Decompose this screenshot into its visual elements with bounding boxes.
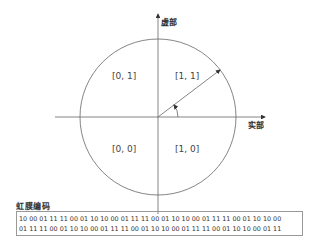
iris-code-box: 10 00 01 11 11 00 01 10 10 00 01 11 11 0… [16, 211, 303, 236]
iris-code-line-1: 10 00 01 11 11 00 01 10 10 00 01 11 11 0… [19, 214, 302, 224]
quadrant-label-top-right: [1, 1] [175, 71, 199, 81]
angle-arc [174, 105, 178, 117]
iris-code-title: 虹膜编码 [16, 200, 50, 211]
iris-code-line-2: 01 11 11 00 01 10 10 00 01 11 11 00 01 1… [19, 224, 302, 234]
quadrant-label-bottom-left: [0, 0] [112, 144, 136, 154]
real-axis-label: 实部 [248, 120, 264, 130]
quadrant-label-bottom-right: [1, 0] [175, 144, 199, 154]
quadrant-label-top-left: [0, 1] [112, 71, 136, 81]
imaginary-axis-label: 虚部 [161, 17, 177, 27]
